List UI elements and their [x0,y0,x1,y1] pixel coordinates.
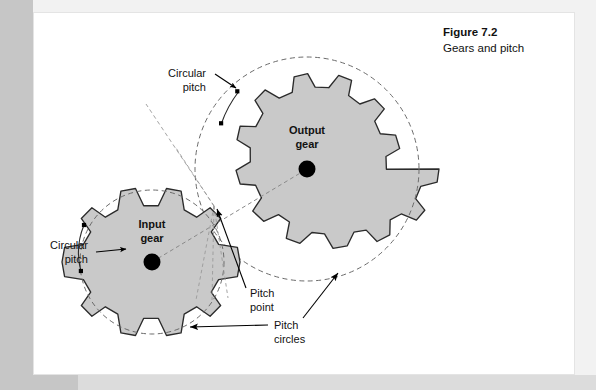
leader-circular-pitch-top [215,74,236,88]
label-pitch-point-line1: Pitch [250,287,274,299]
output-circular-pitch-arc [222,92,239,123]
figure-caption-subtitle: Gears and pitch [443,42,524,54]
label-pitch-circles-line2: circles [274,333,306,345]
leader-pitch-circles-left [190,325,268,327]
input-pitch-marker-bottom [79,269,83,273]
label-output-gear-line2: gear [295,138,319,150]
label-pitch-circles-line1: Pitch [274,319,298,331]
figure-caption-title: Figure 7.2 [443,26,497,38]
output-pitch-marker-bottom [219,121,223,125]
label-circular-pitch-top-line2: pitch [183,81,206,93]
input-pitch-marker-top [82,223,86,227]
label-input-gear-line1: Input [139,218,166,230]
output-pitch-marker-top [235,89,239,93]
label-circular-pitch-left-line2: pitch [65,253,88,265]
label-circular-pitch-left-line1: Circular [50,239,88,251]
figure-screenshot: Circular pitch Circular pitch Output gea… [0,0,596,390]
output-gear-center-dot [299,161,316,178]
label-output-gear-line1: Output [289,124,325,136]
gears-and-pitch-diagram: Circular pitch Circular pitch Output gea… [0,0,596,390]
output-gear-body [236,74,439,249]
input-gear-center-dot [144,254,161,271]
label-input-gear-line2: gear [140,232,164,244]
label-pitch-point-line2: point [250,301,274,313]
label-circular-pitch-top-line1: Circular [168,67,206,79]
